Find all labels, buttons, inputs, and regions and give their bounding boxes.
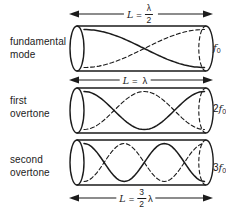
wave-dashed xyxy=(84,92,205,130)
arrowhead-left-icon xyxy=(69,194,79,201)
frequency-label-2f0: 2f0 xyxy=(213,103,226,115)
mode-label-line1: second xyxy=(10,153,50,166)
length-symbol: L xyxy=(119,193,125,204)
mode-label-line2: mode xyxy=(10,48,66,61)
standing-waves-figure: fundamental mode first overtone second o… xyxy=(0,0,226,218)
fraction-denominator: 2 xyxy=(139,199,144,209)
tube-second-overtone xyxy=(70,140,213,185)
mode-label-line2: overtone xyxy=(10,166,50,179)
tube-right-rim-dashed xyxy=(199,140,206,185)
tube-left-rim xyxy=(70,88,84,133)
fraction-numerator: λ xyxy=(145,4,153,15)
mode-label-line2: overtone xyxy=(10,107,50,120)
equals-sign: = xyxy=(129,193,135,204)
wave-dashed xyxy=(84,144,205,182)
length-label-second-overtone: L = 3 2 λ xyxy=(116,188,155,208)
frequency-label-3f0: 3f0 xyxy=(213,162,226,174)
length-label-fundamental: L = λ 2 xyxy=(124,4,158,24)
wave-solid xyxy=(84,92,205,130)
fraction: 3 2 xyxy=(137,188,146,208)
arrowhead-left-icon xyxy=(69,10,79,17)
fraction-denominator: 2 xyxy=(147,15,152,25)
equals-sign: = xyxy=(136,9,142,20)
tube-first-overtone xyxy=(70,88,213,133)
frequency-label-f0: f0 xyxy=(213,42,221,54)
length-symbol: L xyxy=(127,9,133,20)
mode-label-second-overtone: second overtone xyxy=(10,153,50,179)
tube-left-rim xyxy=(70,140,84,185)
equals-sign: = xyxy=(132,75,138,86)
tube-left-rim xyxy=(70,26,84,71)
length-label-first-overtone: L = λ xyxy=(120,75,151,86)
tube-right-rim-dashed xyxy=(199,26,206,71)
length-suffix: λ xyxy=(143,75,148,86)
arrowhead-right-icon xyxy=(203,10,213,17)
arrowhead-right-icon xyxy=(203,194,213,201)
mode-label-first-overtone: first overtone xyxy=(10,94,50,120)
mode-label-line1: fundamental xyxy=(10,35,66,48)
frequency-subscript: 0 xyxy=(222,167,226,174)
fraction: λ 2 xyxy=(145,4,153,24)
tube-right-rim-dashed xyxy=(199,88,206,133)
frequency-subscript: 0 xyxy=(217,47,221,54)
length-suffix: λ xyxy=(148,193,153,204)
tube-fundamental xyxy=(70,26,213,71)
length-symbol: L xyxy=(123,75,129,86)
fraction-numerator: 3 xyxy=(137,188,146,199)
arrowhead-right-icon xyxy=(203,76,213,83)
frequency-subscript: 0 xyxy=(222,108,226,115)
arrowhead-left-icon xyxy=(69,76,79,83)
wave-dashed xyxy=(84,30,205,68)
mode-label-line1: first xyxy=(10,94,50,107)
mode-label-fundamental: fundamental mode xyxy=(10,35,66,61)
